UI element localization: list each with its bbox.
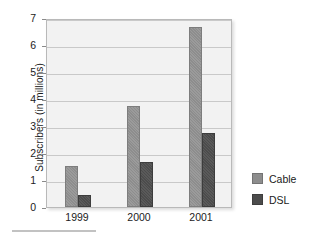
y-axis-tick-label: 2: [22, 147, 36, 159]
bar-cable-2001: [189, 27, 202, 207]
x-axis-tick-label: 1999: [54, 211, 100, 223]
dsl-color-swatch: [252, 194, 263, 205]
legend-item-dsl[interactable]: DSL: [252, 189, 312, 210]
gridline: [47, 74, 231, 75]
bar-dsl-2000: [140, 162, 153, 207]
legend-item-cable[interactable]: Cable: [252, 168, 312, 189]
y-axis-tick-mark: [42, 208, 46, 209]
gridline: [47, 20, 231, 21]
x-axis-tick-label: 2000: [116, 211, 162, 223]
legend-label-cable: Cable: [269, 173, 296, 185]
y-axis-tick-label: 5: [22, 66, 36, 78]
chart-legend: Cable DSL: [252, 168, 312, 210]
bar-cable-2000: [127, 106, 140, 207]
bar-chart-figure: Subscribers (in millions) 01234567 19992…: [0, 0, 314, 241]
cable-color-swatch: [252, 173, 263, 184]
y-axis-tick-label: 1: [22, 174, 36, 186]
bar-cable-1999: [65, 166, 78, 207]
gridline: [47, 47, 231, 48]
y-axis-tick-label: 3: [22, 120, 36, 132]
x-axis-tick-label: 2001: [178, 211, 224, 223]
plot-area: [46, 19, 232, 208]
y-axis-tick-label: 0: [22, 201, 36, 213]
bar-dsl-1999: [78, 195, 91, 207]
bar-dsl-2001: [202, 133, 215, 207]
footer-rule: [12, 230, 96, 232]
y-axis-tick-label: 7: [22, 12, 36, 24]
legend-label-dsl: DSL: [269, 194, 289, 206]
y-axis-tick-label: 4: [22, 93, 36, 105]
y-axis-tick-label: 6: [22, 39, 36, 51]
gridline: [47, 101, 231, 102]
